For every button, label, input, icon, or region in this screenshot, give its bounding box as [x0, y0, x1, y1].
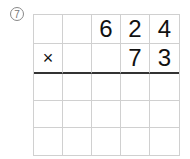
answer-cell[interactable] [34, 128, 63, 155]
problem-number-label: 7 [10, 7, 24, 21]
answer-cell[interactable] [150, 74, 179, 101]
answer-cell[interactable] [121, 101, 150, 128]
grid-cell [34, 15, 63, 44]
answer-cell[interactable] [121, 128, 150, 155]
grid-cell [63, 15, 92, 44]
answer-cell[interactable] [92, 128, 121, 155]
multiplicand-digit: 4 [150, 15, 179, 44]
multiplicand-digit: 2 [121, 15, 150, 44]
multiplicand-digit: 6 [92, 15, 121, 44]
multiply-operator: × [34, 44, 63, 74]
answer-cell[interactable] [92, 74, 121, 101]
multiplier-digit: 7 [121, 44, 150, 74]
answer-cell[interactable] [121, 74, 150, 101]
answer-cell[interactable] [34, 101, 63, 128]
grid-cell [63, 44, 92, 74]
answer-cell[interactable] [63, 74, 92, 101]
grid-cell [92, 44, 121, 74]
answer-cell[interactable] [63, 101, 92, 128]
answer-cell[interactable] [150, 128, 179, 155]
answer-cell[interactable] [92, 101, 121, 128]
answer-cell[interactable] [34, 74, 63, 101]
multiplication-grid: 6 2 4 × 7 3 [33, 14, 180, 156]
multiplier-digit: 3 [150, 44, 179, 74]
answer-cell[interactable] [150, 101, 179, 128]
answer-cell[interactable] [63, 128, 92, 155]
